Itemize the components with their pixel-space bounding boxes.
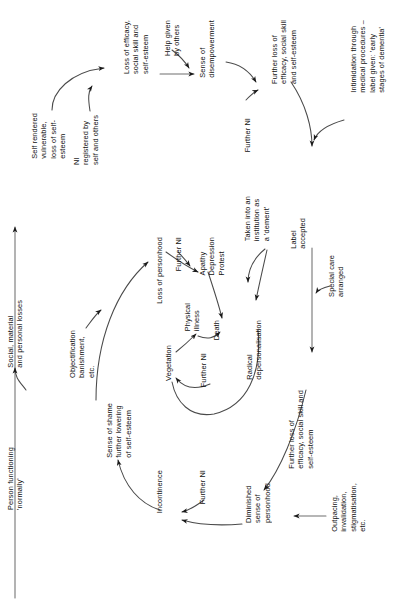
node-further-ni-vegetation: Further NI xyxy=(199,353,208,387)
edge-taken-into-institution xyxy=(248,249,265,282)
node-objectification-banishment: Objectification banishment, etc. xyxy=(68,330,96,378)
node-further-loss-of-efficacy-bottom: Further loss of efficacy, social skill a… xyxy=(287,390,315,469)
node-person-functioning-normally: Person functioning 'normally' xyxy=(6,447,25,510)
node-loss-of-efficacy-social-skill: Loss of efficacy, social skill and self-… xyxy=(122,20,150,74)
edge-objectification-into-curve xyxy=(86,310,101,328)
node-further-ni-top: Further NI xyxy=(243,118,252,152)
node-loss-of-personhood: Loss of personhood xyxy=(155,237,164,304)
edge-incontinence-to-shame xyxy=(118,460,160,510)
node-outpacing-invalidation: Outpacing, invalidation, stigmatisation,… xyxy=(330,483,367,532)
node-special-care-arranged: Special care arranged xyxy=(327,255,346,297)
node-vegetation: Vegetation xyxy=(164,345,173,381)
edge-further-ni-into-curve xyxy=(246,90,258,100)
node-apathy-depression-protest: Apathy Depression Protest xyxy=(198,237,226,275)
node-help-given-by-others: Help given by others xyxy=(163,20,182,56)
node-further-ni-incontinence: Further NI xyxy=(198,470,207,504)
edge-disempowerment-to-further xyxy=(226,62,256,82)
edge-institution-to-radical xyxy=(256,250,267,300)
edge-shame-to-loss-personhood xyxy=(96,262,148,400)
node-ni-registered-by-self-and-others: NI registered by self and others xyxy=(72,115,100,165)
node-social-material-personal-losses: Social, material and personal losses xyxy=(6,300,25,368)
edge-further-loss-to-label xyxy=(291,82,312,146)
node-label-accepted: Label accepted xyxy=(289,218,308,249)
node-further-loss-of-efficacy-top: Further loss of efficacy, social skill a… xyxy=(270,20,298,84)
node-sense-of-shame: Sense of shame further lowering of self-… xyxy=(105,403,133,458)
node-physical-illness: Physical illness xyxy=(183,303,202,331)
node-death: Death xyxy=(212,320,221,340)
edge-vegetation-to-physical xyxy=(176,334,196,352)
edge-losses-into-spine xyxy=(15,368,26,390)
edge-apathy-to-death xyxy=(208,272,222,318)
node-incontinence: Incontinence xyxy=(155,470,164,513)
node-intimidation-medical-procedures: Intimidation through medical procedures … xyxy=(349,20,386,93)
edge-self-rendered-to-loss xyxy=(52,68,104,110)
node-diminished-sense-of-personhood: Diminished sense of personhood xyxy=(244,483,272,523)
node-further-ni-apathy: Further NI xyxy=(174,237,183,271)
diagram-canvas: Person functioning 'normally'Social, mat… xyxy=(0,0,409,608)
node-radical-depersonalisation: Radical depersonalisation xyxy=(245,320,264,380)
edge-intimidation-to-label xyxy=(314,120,344,140)
edge-diminished-to-incontinence xyxy=(182,520,242,525)
node-taken-into-institution: Taken into an institution as a 'dement' xyxy=(243,196,271,241)
edge-ni-registered-into-curve xyxy=(89,86,92,111)
node-self-rendered-vulnerable: Self rendered vulnerable, loss of self- … xyxy=(30,113,67,159)
node-sense-of-disempowerment: Sense of disempowerment xyxy=(198,20,217,78)
